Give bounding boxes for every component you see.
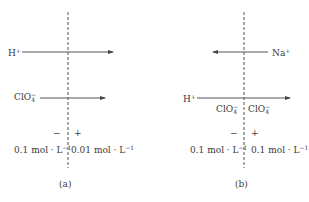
ion-label-h-b: H+ <box>183 92 196 104</box>
concentration-left-b: 0.1 mol · L−1 <box>190 143 247 155</box>
membrane-label-clo4-right-b: ClO4− <box>248 104 270 117</box>
polarity-positive-a: + <box>74 128 82 138</box>
concentration-right-a: 0.01 mol · L−1 <box>71 143 134 155</box>
diagram-lines <box>0 0 309 202</box>
ion-label-h-a: H+ <box>8 46 21 58</box>
polarity-negative-a: − <box>53 128 61 138</box>
caption-b: (b) <box>235 179 248 189</box>
membrane-label-clo4-left-b: ClO4− <box>216 104 238 117</box>
concentration-right-b: 0.1 mol · L−1 <box>251 143 308 155</box>
concentration-left-a: 0.1 mol · L−1 <box>14 143 71 155</box>
ion-label-na-b: Na+ <box>272 46 290 58</box>
polarity-negative-b: − <box>230 128 238 138</box>
polarity-positive-b: + <box>251 128 259 138</box>
caption-a: (a) <box>59 179 71 189</box>
ion-label-clo4-a: ClO4− <box>14 92 36 105</box>
